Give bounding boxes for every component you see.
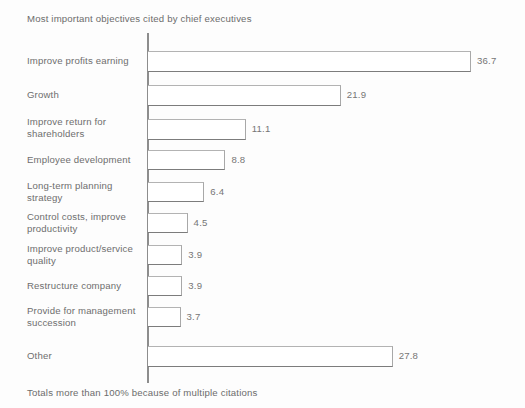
bar bbox=[148, 51, 471, 72]
bar-value-label: 21.9 bbox=[347, 89, 366, 100]
bar-category-label-line: productivity bbox=[27, 223, 145, 235]
bar-category-label: Provide for managementsuccession bbox=[27, 305, 145, 328]
bar-category-label-line: Improve return for bbox=[27, 116, 145, 128]
bar-category-label: Improve product/servicequality bbox=[27, 243, 145, 266]
bar-value-label: 6.4 bbox=[210, 186, 224, 197]
bar-category-label-line: Provide for management bbox=[27, 305, 145, 317]
bar-value-label: 11.1 bbox=[252, 123, 271, 134]
bar bbox=[148, 245, 182, 265]
bar-category-label-line: Other bbox=[27, 350, 145, 362]
bar-category-label: Improve profits earning bbox=[27, 55, 145, 67]
chart-page: Most important objectives cited by chief… bbox=[0, 0, 525, 408]
bar-category-label-line: quality bbox=[27, 255, 145, 267]
bar bbox=[148, 85, 341, 106]
bar-value-label: 3.9 bbox=[188, 249, 202, 260]
bar bbox=[148, 213, 188, 233]
bar-category-label-line: Employee development bbox=[27, 154, 145, 166]
bar-category-label-line: succession bbox=[27, 317, 145, 329]
bar-value-label: 4.5 bbox=[194, 217, 208, 228]
bar-category-label: Improve return forshareholders bbox=[27, 116, 145, 139]
bar-category-label-line: Long-term planning bbox=[27, 180, 145, 192]
bar-value-label: 3.9 bbox=[188, 280, 202, 291]
bar-category-label-line: Control costs, improve bbox=[27, 211, 145, 223]
bar-category-label-line: Improve profits earning bbox=[27, 55, 145, 67]
bar bbox=[148, 182, 204, 202]
bar-category-label-line: Improve product/service bbox=[27, 243, 145, 255]
bar bbox=[148, 119, 246, 140]
bar-value-label: 36.7 bbox=[477, 55, 496, 66]
bar-value-label: 8.8 bbox=[231, 154, 245, 165]
bar-chart-plot-area: Improve profits earning36.7Growth21.9Imp… bbox=[0, 0, 525, 408]
bar-value-label: 27.8 bbox=[399, 350, 418, 361]
bar-category-label-line: shareholders bbox=[27, 128, 145, 140]
bar bbox=[148, 276, 182, 296]
bar-value-label: 3.7 bbox=[187, 311, 201, 322]
bar-category-label: Growth bbox=[27, 89, 145, 101]
bar-category-label: Control costs, improveproductivity bbox=[27, 211, 145, 234]
bar bbox=[148, 150, 225, 170]
chart-footnote: Totals more than 100% because of multipl… bbox=[27, 387, 258, 398]
bar-category-label-line: Restructure company bbox=[27, 280, 145, 292]
bar-category-label: Restructure company bbox=[27, 280, 145, 292]
bar-category-label: Long-term planningstrategy bbox=[27, 180, 145, 203]
bar-category-label: Employee development bbox=[27, 154, 145, 166]
bar bbox=[148, 346, 393, 367]
bar-category-label: Other bbox=[27, 350, 145, 362]
bar-category-label-line: Growth bbox=[27, 89, 145, 101]
bar-category-label-line: strategy bbox=[27, 192, 145, 204]
bar bbox=[148, 307, 181, 327]
